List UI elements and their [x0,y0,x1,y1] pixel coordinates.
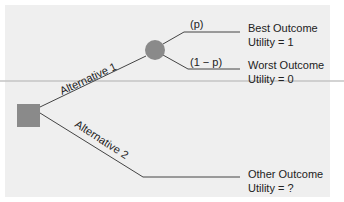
one-minus-p-label: (1 − p) [190,56,222,68]
other-outcome-name: Other Outcome [248,168,323,180]
chance-node-circle [145,40,165,60]
p-branch [163,32,184,44]
best-outcome-utility: Utility = 1 [248,36,294,48]
alternative-1-label: Alternative 1 [58,60,118,97]
decision-node-square [17,104,40,127]
best-outcome-name: Best Outcome [248,22,318,34]
worst-outcome-name: Worst Outcome [248,59,324,71]
decision-tree-diagram: Alternative 1 Alternative 2 (p) (1 − p) … [0,0,344,202]
one-minus-p-branch [163,55,188,69]
p-label: (p) [190,18,203,30]
other-outcome-utility: Utility = ? [248,182,294,194]
worst-outcome-utility: Utility = 0 [248,73,294,85]
alternative-2-branch [40,113,143,177]
